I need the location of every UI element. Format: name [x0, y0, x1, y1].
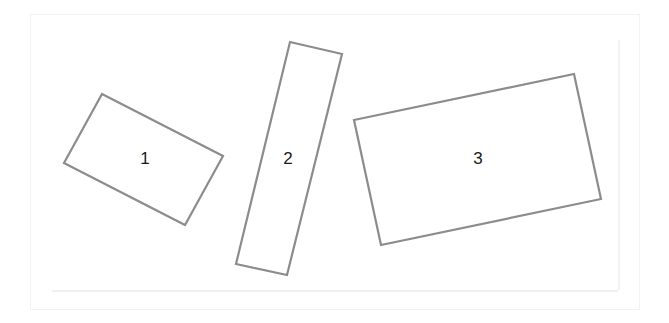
rectangle-1: 1 — [64, 94, 223, 225]
rectangle-2-label: 2 — [283, 149, 292, 168]
rectangle-3-label: 3 — [473, 149, 482, 168]
rectangle-2: 2 — [236, 42, 342, 275]
diagram-canvas: 1 2 3 — [0, 0, 669, 323]
rectangle-3: 3 — [354, 74, 601, 245]
rectangle-1-label: 1 — [140, 149, 149, 168]
